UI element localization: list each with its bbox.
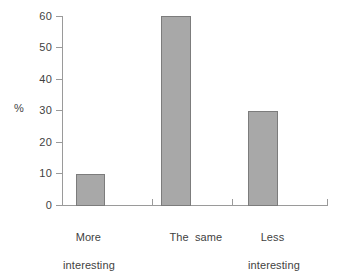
bar-more-interesting <box>76 174 105 206</box>
category-label-line1: More <box>76 231 101 243</box>
y-tick-40 <box>56 79 62 80</box>
y-tick-label-50: 50 <box>26 42 52 53</box>
y-tick-20 <box>56 142 62 143</box>
y-tick-10 <box>56 173 62 174</box>
category-label-line2: interesting <box>63 258 115 272</box>
y-tick-label-10: 10 <box>26 168 52 179</box>
y-tick-label-60: 60 <box>26 11 52 22</box>
y-tick-label-0: 0 <box>26 200 52 211</box>
x-tick-1 <box>152 199 153 206</box>
y-axis-title: % <box>14 103 24 114</box>
x-category-label-more-interesting: More interesting <box>63 216 115 275</box>
category-label-line1: Less <box>261 231 285 243</box>
x-tick-left <box>62 199 63 206</box>
y-axis-line <box>62 16 63 206</box>
x-tick-right <box>327 199 328 206</box>
y-tick-label-30: 30 <box>26 105 52 116</box>
x-tick-2 <box>232 199 233 206</box>
bar-the-same <box>161 16 191 206</box>
y-tick-30 <box>56 110 62 111</box>
y-tick-50 <box>56 47 62 48</box>
bar-less-interesting <box>248 111 278 206</box>
category-label-line1: The same <box>169 231 222 243</box>
y-tick-60 <box>56 16 62 17</box>
y-tick-label-40: 40 <box>26 74 52 85</box>
y-tick-label-20: 20 <box>26 137 52 148</box>
x-category-label-the-same: The same <box>157 216 222 258</box>
category-label-line2: interesting <box>248 258 300 272</box>
x-category-label-less-interesting: Less interesting <box>248 216 300 275</box>
